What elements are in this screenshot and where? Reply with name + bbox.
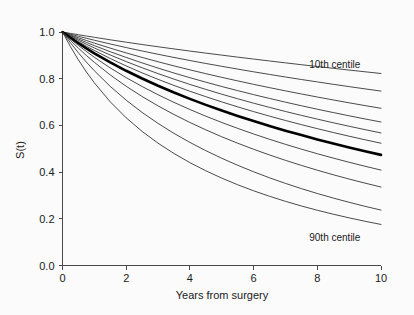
y-tick-label: 0.8 [39, 73, 54, 85]
x-tick-label: 4 [187, 272, 193, 284]
survival-curve-plot: 0.00.20.40.60.81.0 0246810 Years from su… [0, 0, 414, 315]
y-tick-label: 0.4 [39, 166, 54, 178]
x-tick-label: 10 [375, 272, 387, 284]
annotation-90th-centile: 90th centile [309, 232, 361, 243]
x-axis-title: Years from surgery [176, 289, 269, 301]
x-tick-label: 8 [314, 272, 320, 284]
annotation-10th-centile: 10th centile [309, 59, 361, 70]
x-tick-label: 0 [59, 272, 65, 284]
y-tick-label: 0.6 [39, 119, 54, 131]
x-tick-label: 6 [251, 272, 257, 284]
y-tick-label: 0.2 [39, 213, 54, 225]
chart-figure: 0.00.20.40.60.81.0 0246810 Years from su… [0, 0, 414, 315]
y-axis-title: S(t) [14, 141, 26, 159]
y-tick-label: 0.0 [39, 260, 54, 272]
x-tick-label: 2 [123, 272, 129, 284]
y-tick-label: 1.0 [39, 26, 54, 38]
